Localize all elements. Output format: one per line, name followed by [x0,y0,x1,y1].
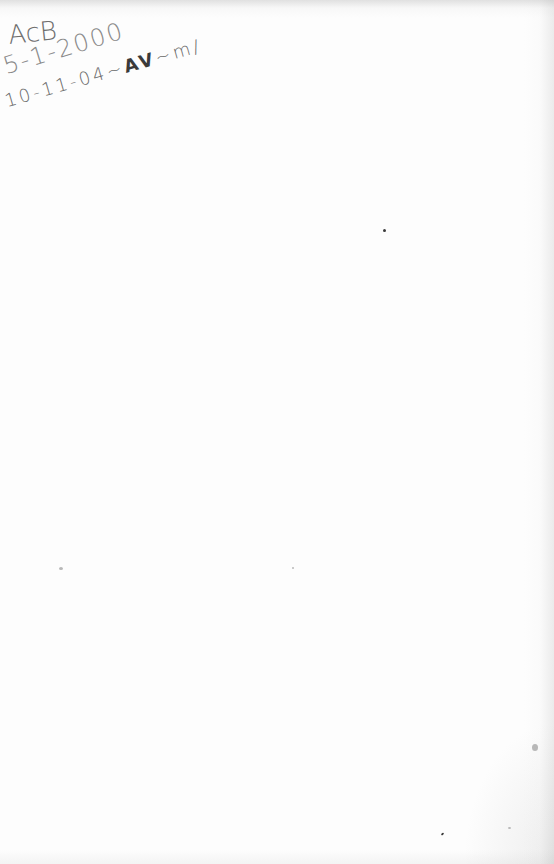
scan-speck [508,827,511,829]
scan-speck [532,744,538,751]
scan-speck [383,229,386,232]
scan-speck [292,567,294,569]
scanned-page: AcB 5-1-2000 10-11-04~AV~m/ [0,0,554,864]
scan-speck [441,832,445,835]
handwritten-date-2-suffix: ~m/ [153,35,205,68]
scan-speck [59,567,63,570]
